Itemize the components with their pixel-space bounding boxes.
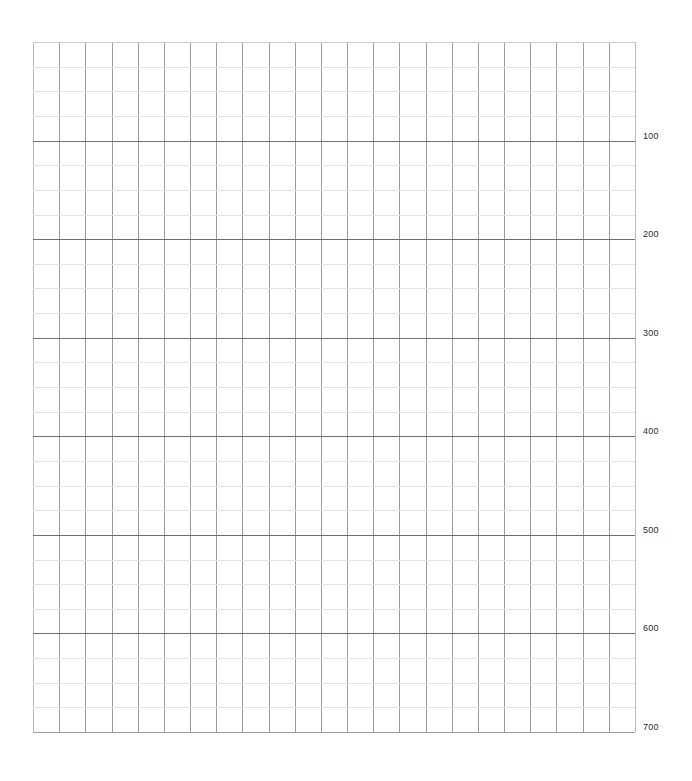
minor-horizontal-gridline [33, 116, 635, 117]
minor-horizontal-gridline [33, 658, 635, 659]
y-axis-tick-label: 700 [643, 723, 659, 732]
y-axis-tick-label: 300 [643, 329, 659, 338]
minor-horizontal-gridline [33, 707, 635, 708]
y-axis-tick-label: 200 [643, 230, 659, 239]
minor-horizontal-gridline [33, 486, 635, 487]
minor-horizontal-gridline [33, 288, 635, 289]
major-horizontal-gridline [33, 732, 635, 733]
vertical-gridline [635, 42, 636, 732]
major-horizontal-gridline [33, 42, 635, 43]
minor-horizontal-gridline [33, 510, 635, 511]
minor-horizontal-gridline [33, 215, 635, 216]
minor-horizontal-gridline [33, 461, 635, 462]
minor-horizontal-gridline [33, 609, 635, 610]
y-axis-tick-label: 100 [643, 132, 659, 141]
minor-horizontal-gridline [33, 165, 635, 166]
minor-horizontal-gridline [33, 190, 635, 191]
major-horizontal-gridline [33, 338, 635, 339]
minor-horizontal-gridline [33, 584, 635, 585]
minor-horizontal-gridline [33, 313, 635, 314]
minor-horizontal-gridline [33, 560, 635, 561]
minor-horizontal-gridline [33, 412, 635, 413]
minor-horizontal-gridline [33, 264, 635, 265]
minor-horizontal-gridline [33, 683, 635, 684]
major-horizontal-gridline [33, 141, 635, 142]
major-horizontal-gridline [33, 436, 635, 437]
minor-horizontal-gridline [33, 67, 635, 68]
y-axis-tick-label: 600 [643, 624, 659, 633]
y-axis-tick-label: 400 [643, 427, 659, 436]
y-axis-tick-label: 500 [643, 526, 659, 535]
minor-horizontal-gridline [33, 387, 635, 388]
major-horizontal-gridline [33, 239, 635, 240]
minor-horizontal-gridline [33, 362, 635, 363]
major-horizontal-gridline [33, 535, 635, 536]
major-horizontal-gridline [33, 633, 635, 634]
minor-horizontal-gridline [33, 91, 635, 92]
plot-area [33, 42, 635, 732]
grid-chart: 100200300400500600700 [0, 0, 692, 781]
